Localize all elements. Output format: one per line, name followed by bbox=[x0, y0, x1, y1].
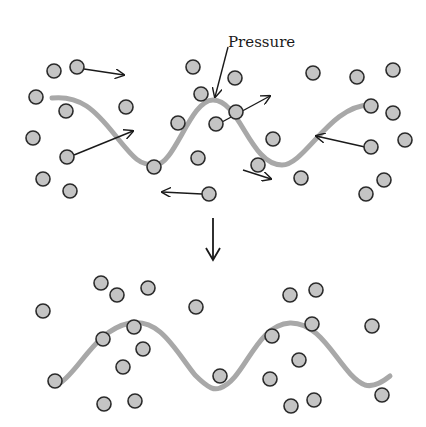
particle bbox=[127, 320, 141, 334]
particle bbox=[294, 171, 308, 185]
particle bbox=[350, 70, 364, 84]
wave-line bbox=[52, 98, 370, 165]
particle bbox=[359, 187, 373, 201]
particle bbox=[375, 388, 389, 402]
particle bbox=[186, 60, 200, 74]
pressure-wave-diagram: Pressure bbox=[0, 0, 426, 427]
particle bbox=[377, 173, 391, 187]
particle bbox=[136, 342, 150, 356]
particle bbox=[307, 393, 321, 407]
particle bbox=[171, 116, 185, 130]
particle bbox=[36, 304, 50, 318]
particle bbox=[306, 66, 320, 80]
motion-arrow-icon bbox=[316, 136, 365, 147]
particle bbox=[266, 132, 280, 146]
particle bbox=[386, 106, 400, 120]
particle bbox=[48, 374, 62, 388]
pressure-pointer-arrow bbox=[215, 47, 228, 97]
particle bbox=[228, 71, 242, 85]
particle bbox=[128, 394, 142, 408]
particle bbox=[202, 187, 216, 201]
motion-arrow-icon bbox=[84, 69, 124, 75]
motion-arrow-icon bbox=[162, 192, 202, 194]
particle bbox=[251, 158, 265, 172]
particle bbox=[59, 104, 73, 118]
particle bbox=[94, 276, 108, 290]
particle bbox=[365, 319, 379, 333]
pointer-arrow-icon bbox=[215, 47, 228, 97]
particle bbox=[147, 160, 161, 174]
particle bbox=[194, 87, 208, 101]
particle bbox=[29, 90, 43, 104]
transition-down-arrow-icon bbox=[206, 218, 220, 260]
particle bbox=[263, 372, 277, 386]
particle bbox=[97, 397, 111, 411]
particle bbox=[116, 360, 130, 374]
particle bbox=[36, 172, 50, 186]
particle bbox=[284, 399, 298, 413]
particle bbox=[70, 60, 84, 74]
particle bbox=[119, 100, 133, 114]
particle bbox=[63, 184, 77, 198]
particle bbox=[398, 133, 412, 147]
particle bbox=[60, 150, 74, 164]
particle bbox=[213, 369, 227, 383]
pressure-label: Pressure bbox=[228, 33, 295, 51]
particle bbox=[209, 117, 223, 131]
particle bbox=[364, 99, 378, 113]
particle bbox=[292, 353, 306, 367]
particle bbox=[309, 283, 323, 297]
top-pressure-wave bbox=[52, 98, 370, 165]
particle bbox=[386, 63, 400, 77]
particle bbox=[141, 281, 155, 295]
particle bbox=[189, 300, 203, 314]
particle bbox=[191, 151, 205, 165]
particle bbox=[26, 131, 40, 145]
particle bbox=[364, 140, 378, 154]
particle bbox=[96, 332, 110, 346]
particle bbox=[265, 329, 279, 343]
particle bbox=[229, 105, 243, 119]
particle bbox=[110, 288, 124, 302]
bottom-particles bbox=[36, 276, 389, 413]
particle bbox=[305, 317, 319, 331]
particle bbox=[283, 288, 297, 302]
particle bbox=[47, 64, 61, 78]
